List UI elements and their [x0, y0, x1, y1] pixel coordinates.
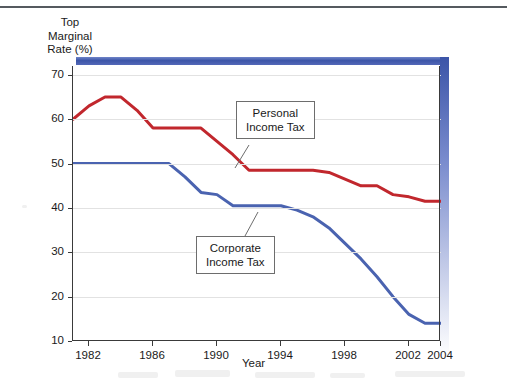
callout-personal-income-tax: Personal Income Tax: [236, 101, 315, 139]
x-tick-mark: [344, 341, 345, 346]
y-tick-mark: [68, 341, 72, 342]
y-tick-label: 20: [36, 290, 64, 302]
y-tick-mark: [68, 252, 72, 253]
gridline: [73, 208, 441, 209]
y-tick-label: 50: [36, 157, 64, 169]
y-tick-label: 60: [36, 112, 64, 124]
gridline: [73, 297, 441, 298]
gridline: [73, 75, 441, 76]
x-tick-mark: [152, 341, 153, 346]
x-tick-mark: [216, 341, 217, 346]
x-tick-mark: [88, 341, 89, 346]
scan-artifact: [118, 372, 158, 378]
x-tick-mark: [280, 341, 281, 346]
y-tick-label: 30: [36, 245, 64, 257]
decorative-top-bar: [76, 57, 446, 65]
y-tick-label: 40: [36, 201, 64, 213]
scan-artifact: [395, 371, 465, 377]
top-divider-rule: [0, 6, 507, 8]
y-tick-label: 10: [36, 334, 64, 346]
scan-artifact: [255, 372, 315, 378]
decorative-right-bar: [440, 57, 449, 357]
y-axis-title: Top Marginal Rate (%): [30, 16, 110, 57]
y-tick-mark: [68, 297, 72, 298]
y-tick-mark: [68, 164, 72, 165]
callout-corporate-income-tax: Corporate Income Tax: [196, 236, 275, 274]
y-tick-label: 70: [36, 68, 64, 80]
y-tick-mark: [68, 208, 72, 209]
figure-root: Top Marginal Rate (%) 102030405060701982…: [0, 0, 507, 391]
scan-artifact: [175, 370, 230, 377]
scan-artifact: [22, 205, 27, 208]
scan-artifact: [330, 373, 365, 378]
x-axis-title: Year: [0, 357, 507, 369]
x-tick-mark: [440, 341, 441, 346]
plot-right-border: [439, 66, 440, 341]
x-tick-mark: [408, 341, 409, 346]
y-tick-mark: [68, 119, 72, 120]
gridline: [73, 164, 441, 165]
y-tick-mark: [68, 75, 72, 76]
